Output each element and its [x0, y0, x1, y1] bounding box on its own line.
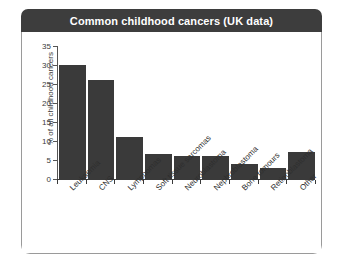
y-tick-label: 30 — [42, 61, 51, 70]
chart-title-bar: Common childhood cancers (UK data) — [21, 9, 322, 32]
x-tick-mark — [57, 180, 58, 184]
bar-leukaemia — [59, 65, 86, 179]
y-tick-label: 15 — [42, 118, 51, 127]
y-tick-label: 35 — [42, 42, 51, 51]
y-tick-mark — [53, 141, 57, 142]
y-tick-label: 10 — [42, 137, 51, 146]
y-tick-label: 20 — [42, 99, 51, 108]
y-tick-label: 5 — [47, 156, 51, 165]
y-tick-label: 0 — [47, 175, 51, 184]
y-tick-mark — [53, 103, 57, 104]
y-tick-mark — [53, 46, 57, 47]
y-tick-label: 25 — [42, 80, 51, 89]
chart-title: Common childhood cancers (UK data) — [70, 15, 273, 27]
y-tick-mark — [53, 65, 57, 66]
plot-panel: % of all childhood cancers 0510152025303… — [22, 32, 321, 253]
y-tick-mark — [53, 122, 57, 123]
y-tick-mark — [53, 160, 57, 161]
y-tick-mark — [53, 84, 57, 85]
